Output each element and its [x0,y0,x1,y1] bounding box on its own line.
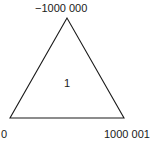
bottom-right-vertex-label: 1000 001 [104,128,150,140]
center-label: 1 [64,77,70,89]
top-vertex-label: −1000 000 [35,2,87,14]
triangle-shape [10,18,124,118]
bottom-left-vertex-label: 0 [1,128,7,140]
triangle-diagram [0,0,160,142]
